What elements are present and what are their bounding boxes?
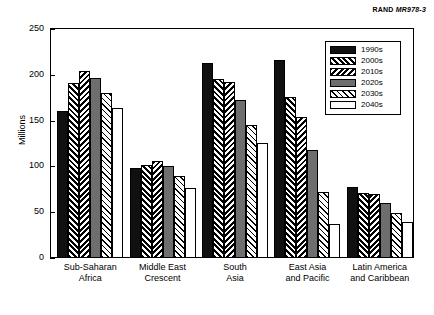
bar-2020s-2: [163, 166, 174, 258]
bar-2000s-1: [68, 83, 79, 258]
bar-2010s-3: [224, 82, 235, 258]
legend-label: 2000s: [361, 57, 383, 65]
bar-2020s-1: [90, 78, 101, 258]
bar-2000s-4: [285, 97, 296, 258]
legend-label: 2020s: [361, 79, 383, 87]
bar-2040s-3: [257, 143, 268, 258]
bar-1990s-5: [347, 187, 358, 258]
legend-label: 1990s: [361, 46, 383, 54]
bar-2030s-3: [246, 125, 257, 258]
legend-item-2000s: 2000s: [330, 56, 396, 66]
bar-group: [202, 29, 268, 258]
source-prefix: RAND: [373, 6, 394, 13]
legend-item-1990s: 1990s: [330, 45, 396, 55]
y-tick-label: 200: [4, 69, 44, 79]
y-tick-label: 0: [4, 252, 44, 262]
bar-1990s-3: [202, 63, 213, 258]
legend-item-2010s: 2010s: [330, 67, 396, 77]
legend-item-2040s: 2040s: [330, 100, 396, 110]
bar-2030s-1: [101, 93, 112, 258]
bar-2010s-2: [152, 161, 163, 258]
bar-2000s-5: [358, 193, 369, 258]
bar-2040s-5: [402, 222, 413, 258]
legend-swatch-2040s: [330, 101, 356, 109]
bar-1990s-1: [57, 111, 68, 258]
legend-label: 2040s: [361, 101, 383, 109]
bar-2040s-2: [185, 188, 196, 258]
legend-label: 2010s: [361, 68, 383, 76]
y-tick-label: 250: [4, 23, 44, 33]
legend-item-2030s: 2030s: [330, 89, 396, 99]
y-axis-title: Millions: [17, 90, 27, 170]
legend-item-2020s: 2020s: [330, 78, 396, 88]
bar-2020s-4: [307, 150, 318, 258]
bar-2030s-4: [318, 192, 329, 258]
bar-2030s-5: [391, 213, 402, 258]
bar-1990s-4: [274, 60, 285, 258]
bar-chart-figure: RAND MR978-3 Millions 050100150200250 Su…: [0, 0, 434, 315]
y-tick-label: 150: [4, 115, 44, 125]
y-tick-label: 100: [4, 160, 44, 170]
legend-swatch-2030s: [330, 90, 356, 98]
bar-group: [57, 29, 123, 258]
bar-2020s-3: [235, 100, 246, 258]
legend-swatch-2020s: [330, 79, 356, 87]
source-code: MR978-3: [396, 6, 426, 13]
bar-2040s-4: [329, 224, 340, 258]
legend: 1990s2000s2010s2020s2030s2040s: [325, 41, 401, 115]
y-tick-label: 50: [4, 206, 44, 216]
bar-2030s-2: [174, 176, 185, 258]
y-tick-mark: [50, 258, 55, 259]
legend-label: 2030s: [361, 90, 383, 98]
x-category-label-line: and Caribbean: [330, 273, 430, 284]
legend-swatch-1990s: [330, 46, 356, 54]
x-category-label: Latin Americaand Caribbean: [330, 262, 430, 284]
bar-2040s-1: [112, 108, 123, 258]
bar-2020s-5: [380, 203, 391, 258]
bar-2000s-3: [213, 79, 224, 258]
bar-1990s-2: [130, 168, 141, 258]
bar-2000s-2: [141, 165, 152, 258]
legend-swatch-2000s: [330, 57, 356, 65]
legend-swatch-2010s: [330, 68, 356, 76]
x-category-label-line: Latin America: [330, 262, 430, 273]
bar-group: [130, 29, 196, 258]
bar-2010s-5: [369, 194, 380, 258]
report-source-id: RAND MR978-3: [373, 6, 426, 13]
bar-2010s-1: [79, 71, 90, 258]
bar-2010s-4: [296, 117, 307, 258]
